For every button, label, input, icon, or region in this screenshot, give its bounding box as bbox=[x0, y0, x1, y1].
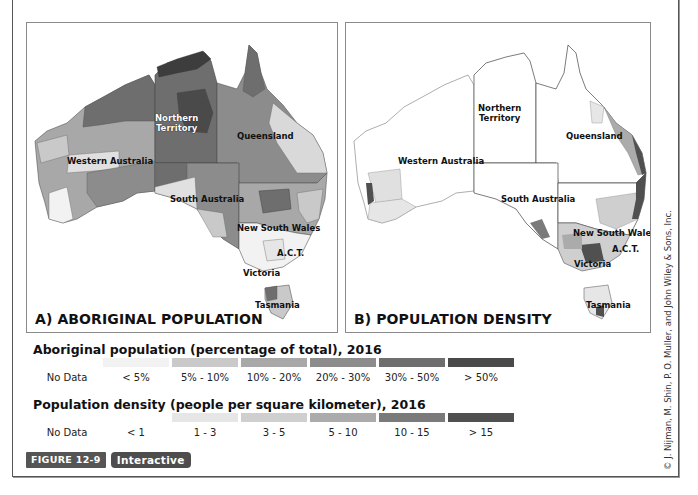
legend-label: No Data bbox=[47, 372, 88, 383]
copyright-notice: © J. Nijman, M. Shin, P. O. Muller, and … bbox=[663, 150, 673, 470]
legend-label: 3 - 5 bbox=[263, 427, 286, 438]
legend-label: 1 - 3 bbox=[194, 427, 217, 438]
legend-swatch bbox=[379, 413, 445, 422]
map-b-label-nt-line2: Territory bbox=[478, 113, 521, 123]
map-panel-population-density: Northern Territory Queensland Western Au… bbox=[345, 22, 651, 333]
map-b-label-act: A.C.T. bbox=[612, 244, 639, 254]
legend-class: 5% - 10% bbox=[172, 358, 238, 383]
map-b-label-western-australia: Western Australia bbox=[398, 156, 484, 166]
map-a-label-western-australia: Western Australia bbox=[67, 156, 153, 166]
legend-label: No Data bbox=[47, 427, 88, 438]
legend-swatch bbox=[310, 358, 376, 367]
map-a-title: A) ABORIGINAL POPULATION bbox=[35, 311, 263, 327]
map-a-label-act: A.C.T. bbox=[277, 248, 304, 258]
legend-class: No Data bbox=[34, 358, 100, 383]
legend-swatch bbox=[448, 413, 514, 422]
map-a-label-tasmania: Tasmania bbox=[255, 300, 300, 310]
map-panel-aboriginal-population: Northern Territory Queensland Western Au… bbox=[26, 22, 338, 333]
legend-swatch bbox=[379, 358, 445, 367]
legend-label: 5% - 10% bbox=[181, 372, 229, 383]
legend-swatch bbox=[103, 413, 169, 422]
legend-class: 1 - 3 bbox=[172, 413, 238, 438]
legend-class: > 15 bbox=[448, 413, 514, 438]
legend-swatch bbox=[34, 413, 100, 422]
legend-label: > 15 bbox=[469, 427, 493, 438]
legend-aboriginal-swatches: No Data < 5% 5% - 10% 10% - 20% 20% - 30… bbox=[34, 358, 514, 383]
legend-swatch bbox=[103, 358, 169, 367]
legend-swatch bbox=[172, 358, 238, 367]
map-b-label-victoria: Victoria bbox=[574, 259, 611, 269]
legend-swatch bbox=[310, 413, 376, 422]
map-b-title: B) POPULATION DENSITY bbox=[354, 311, 552, 327]
map-a-label-nt-line1: Northern bbox=[155, 113, 198, 123]
legend-class: 20% - 30% bbox=[310, 358, 376, 383]
map-a-label-nt-line2: Territory bbox=[155, 123, 198, 133]
legend-label: < 1 bbox=[127, 427, 145, 438]
legend-class: 5 - 10 bbox=[310, 413, 376, 438]
interactive-button[interactable]: Interactive bbox=[111, 452, 191, 468]
australia-map-density bbox=[346, 23, 651, 333]
legend-label: 10% - 20% bbox=[247, 372, 301, 383]
legend-swatch bbox=[241, 358, 307, 367]
map-a-label-south-australia: South Australia bbox=[170, 194, 244, 204]
map-a-label-victoria: Victoria bbox=[243, 268, 280, 278]
legend-label: 5 - 10 bbox=[328, 427, 357, 438]
figure-badges: FIGURE 12-9 Interactive bbox=[26, 452, 191, 468]
legend-class: < 5% bbox=[103, 358, 169, 383]
legend-density-swatches: No Data < 1 1 - 3 3 - 5 5 - 10 10 - 15 >… bbox=[34, 413, 514, 438]
legend-class: 30% - 50% bbox=[379, 358, 445, 383]
map-b-label-tasmania: Tasmania bbox=[586, 300, 631, 310]
legend-class: 10 - 15 bbox=[379, 413, 445, 438]
legend-label: < 5% bbox=[122, 372, 149, 383]
legend-class: No Data bbox=[34, 413, 100, 438]
legend-swatch bbox=[34, 358, 100, 367]
legend-label: 30% - 50% bbox=[385, 372, 439, 383]
map-b-label-northern-territory: Northern Territory bbox=[478, 103, 521, 123]
legend-class: > 50% bbox=[448, 358, 514, 383]
legend-label: 10 - 15 bbox=[394, 427, 429, 438]
australia-map-aboriginal bbox=[27, 23, 338, 333]
map-a-label-northern-territory: Northern Territory bbox=[155, 113, 198, 133]
figure-number-badge: FIGURE 12-9 bbox=[26, 452, 106, 468]
legend-class: 10% - 20% bbox=[241, 358, 307, 383]
legend-swatch bbox=[448, 358, 514, 367]
legend-label: > 50% bbox=[464, 372, 498, 383]
map-a-label-new-south-wales: New South Wales bbox=[237, 223, 320, 233]
legend-class: 3 - 5 bbox=[241, 413, 307, 438]
legend-class: < 1 bbox=[103, 413, 169, 438]
map-b-label-south-australia: South Australia bbox=[501, 194, 575, 204]
legend-density-title: Population density (people per square ki… bbox=[33, 397, 426, 412]
map-b-label-queensland: Queensland bbox=[566, 131, 623, 141]
map-b-label-new-south-wales: New South Wales bbox=[573, 228, 651, 238]
legend-aboriginal-title: Aboriginal population (percentage of tot… bbox=[33, 342, 382, 357]
legend-swatch bbox=[241, 413, 307, 422]
legend-label: 20% - 30% bbox=[316, 372, 370, 383]
legend-swatch bbox=[172, 413, 238, 422]
map-a-label-queensland: Queensland bbox=[237, 131, 294, 141]
map-b-label-nt-line1: Northern bbox=[478, 103, 521, 113]
